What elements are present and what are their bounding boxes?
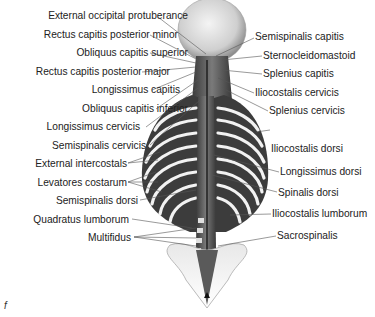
label-longissimus-dorsi: Longissimus dorsi (280, 166, 362, 178)
label-semispinalis-cervicis: Semispinalis cervicis (52, 140, 146, 152)
label-quadratus-lumborum: Quadratus lumborum (33, 214, 129, 226)
label-iliocostalis-lumborum: Iliocostalis lumborum (272, 208, 367, 220)
label-levatores-costarum: Levatores costarum (38, 177, 127, 189)
label-spinalis-dorsi: Spinalis dorsi (278, 187, 339, 199)
label-iliocostalis-dorsi: Iliocostalis dorsi (271, 143, 343, 155)
label-sternocleidomastoid: Sternocleidomastoid (263, 50, 355, 62)
erector-spinae (196, 96, 216, 250)
label-semispinalis-dorsi: Semispinalis dorsi (56, 195, 138, 207)
label-external-occipital-protuberance: External occipital protuberance (48, 10, 188, 22)
label-splenius-cervicis: Splenius cervicis (269, 105, 345, 117)
figure-letter: f (4, 300, 7, 311)
anatomy-figure: External occipital protuberance Rectus c… (0, 0, 375, 317)
label-iliocostalis-cervicis: Iliocostalis cervicis (255, 87, 339, 99)
skull (178, 0, 246, 62)
label-rectus-capitis-posterior-minor: Rectus capitis posterior minor (44, 29, 178, 41)
label-external-intercostals: External intercostals (35, 158, 127, 170)
label-sacrospinalis: Sacrospinalis (277, 230, 338, 242)
label-semispinalis-capitis: Semispinalis capitis (255, 31, 344, 43)
label-obliquus-capitis-superior: Obliquus capitis superior (76, 47, 188, 59)
neck-muscles (192, 56, 232, 100)
label-longissimus-capitis: Longissimus capitis (92, 84, 180, 96)
label-longissimus-cervicis: Longissimus cervicis (47, 121, 140, 133)
label-obliquus-capitis-inferior: Obliquus capitis inferior (82, 103, 188, 115)
label-splenius-capitis: Splenius capitis (263, 68, 334, 80)
label-multifidus: Multifidus (88, 232, 131, 244)
label-rectus-capitis-posterior-major: Rectus capitis posterior major (36, 66, 170, 78)
